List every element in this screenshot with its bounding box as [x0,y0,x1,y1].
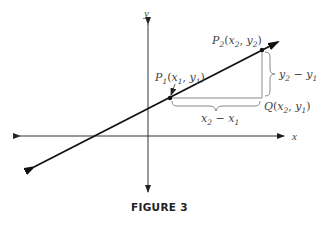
p1-pointer-arrow [171,84,175,95]
q-label: Q(x2, y1) [264,100,311,115]
figure-caption: FIGURE 3 [131,201,188,213]
rise-label: y2 − y1 [278,68,317,83]
secant-line [34,42,278,167]
run-label: x2 − x1 [201,112,239,127]
p2-label: P2(x2, y2) [211,34,262,49]
rise-brace [265,52,275,96]
point-p2 [260,48,264,52]
y-axis-label: y [143,7,149,19]
point-p1 [168,96,172,100]
slope-diagram: x y P1(x1, y1) P2(x2, y2) Q(x2, y1) x2 −… [0,0,330,226]
x-axis-label: x [291,130,297,142]
p1-label: P1(x1, y1) [154,71,205,86]
run-brace [172,101,260,111]
